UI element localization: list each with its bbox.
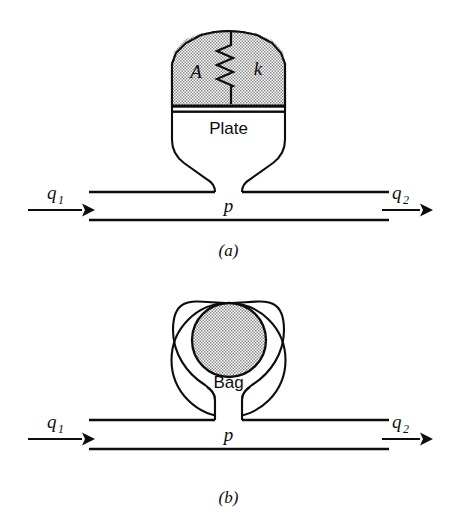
spring-constant-label-text: k (254, 58, 263, 79)
pressure-label-a: p (222, 195, 234, 216)
gas-volume-stipple-a (168, 28, 290, 108)
outflow-label-b: q (392, 411, 402, 432)
outflow-group-b: q 2 (382, 411, 433, 446)
outflow-group-a: q 2 (382, 182, 433, 217)
outflow-subscript-b: 2 (403, 422, 409, 436)
inflow-label-b: q (47, 411, 57, 432)
panel-a: Plate A k p q 1 q 2 (28, 28, 433, 260)
inflow-arrow-head-a (82, 204, 95, 217)
caption-b: (b) (219, 488, 239, 507)
outflow-subscript-a: 2 (403, 193, 409, 207)
inflow-label-a: q (47, 182, 57, 203)
bag-label: Bag (213, 373, 243, 392)
plate-bar-upper (171, 105, 286, 108)
inflow-group-b: q 1 (28, 411, 95, 446)
caption-a: (a) (219, 241, 239, 260)
outflow-label-a: q (392, 182, 402, 203)
neck-mask-b (214, 398, 243, 425)
plate-label: Plate (209, 119, 248, 138)
figure-root: Plate A k p q 1 q 2 (0, 0, 457, 521)
bag-circle (192, 303, 266, 377)
outflow-arrow-head-a (420, 204, 433, 217)
area-label: A (188, 61, 202, 82)
inflow-arrow-head-b (82, 433, 95, 446)
inflow-group-a: q 1 (28, 182, 95, 217)
plate-bar-lower (171, 111, 286, 113)
inflow-subscript-b: 1 (58, 422, 64, 436)
pressure-label-b: p (222, 424, 234, 445)
hydraulic-accumulator-figure: Plate A k p q 1 q 2 (0, 0, 457, 521)
inflow-subscript-a: 1 (58, 193, 64, 207)
panel-b: Bag p q 1 q 2 (b) (28, 302, 433, 507)
outflow-arrow-head-b (420, 433, 433, 446)
